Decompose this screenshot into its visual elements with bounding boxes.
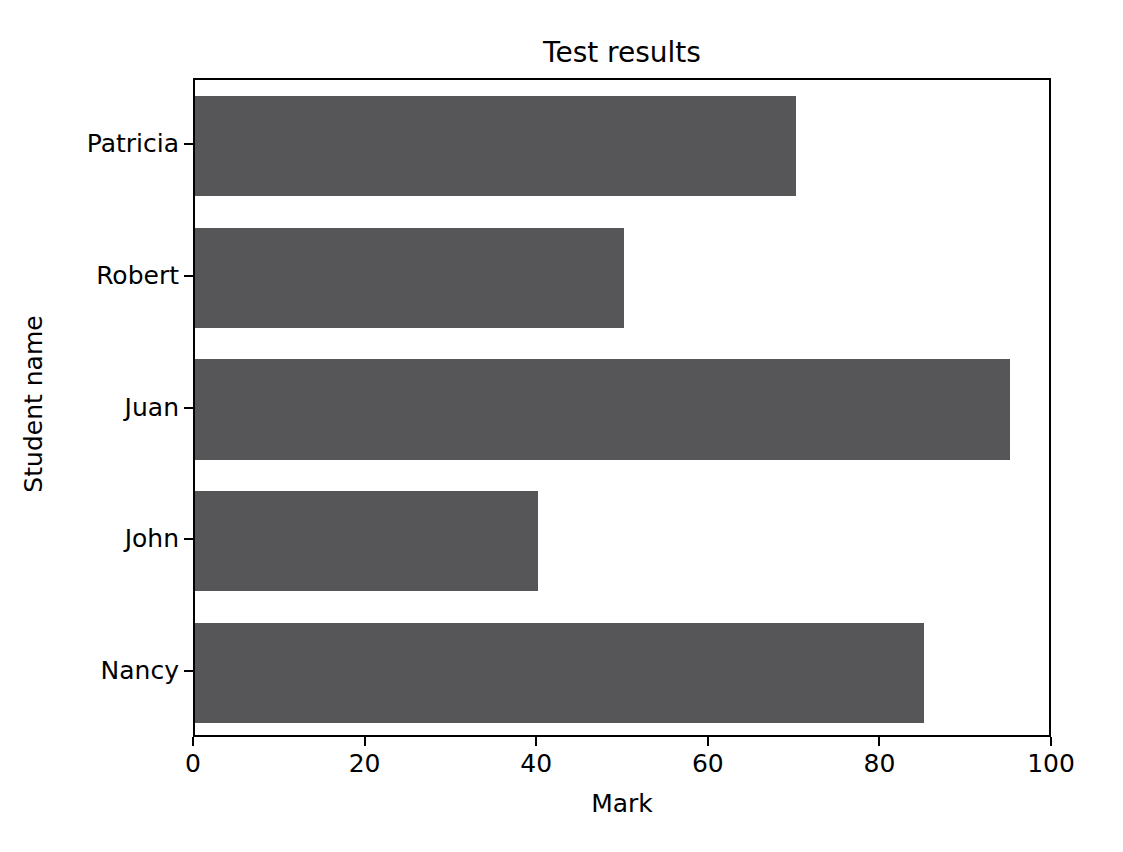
chart-figure: Test results NancyJohnJuanRobertPatricia… <box>0 0 1123 852</box>
x-tick-label-40: 40 <box>476 750 596 778</box>
y-tick-mark <box>184 407 193 409</box>
bar-nancy <box>195 623 924 723</box>
x-tick-label-20: 20 <box>305 750 425 778</box>
x-tick-mark <box>707 737 709 746</box>
x-tick-mark <box>192 737 194 746</box>
y-tick-label-patricia: Patricia <box>9 131 179 156</box>
bars-layer <box>195 80 1049 735</box>
x-tick-label-0: 0 <box>133 750 253 778</box>
bar-juan <box>195 359 1010 459</box>
x-tick-mark <box>535 737 537 746</box>
plot-area <box>193 78 1051 737</box>
y-tick-label-nancy: Nancy <box>9 658 179 683</box>
bar-robert <box>195 228 624 328</box>
bar-patricia <box>195 96 796 196</box>
bar-john <box>195 491 538 591</box>
x-tick-mark <box>364 737 366 746</box>
y-tick-mark <box>184 538 193 540</box>
y-tick-mark <box>184 275 193 277</box>
y-tick-label-john: John <box>9 526 179 551</box>
x-tick-label-100: 100 <box>991 750 1111 778</box>
x-tick-mark <box>1050 737 1052 746</box>
x-axis-label: Mark <box>193 790 1051 818</box>
x-tick-mark <box>878 737 880 746</box>
y-tick-mark <box>184 670 193 672</box>
x-tick-label-60: 60 <box>648 750 768 778</box>
x-tick-label-80: 80 <box>819 750 939 778</box>
y-axis-label: Student name <box>20 284 48 524</box>
y-tick-mark <box>184 143 193 145</box>
chart-title: Test results <box>193 36 1051 70</box>
